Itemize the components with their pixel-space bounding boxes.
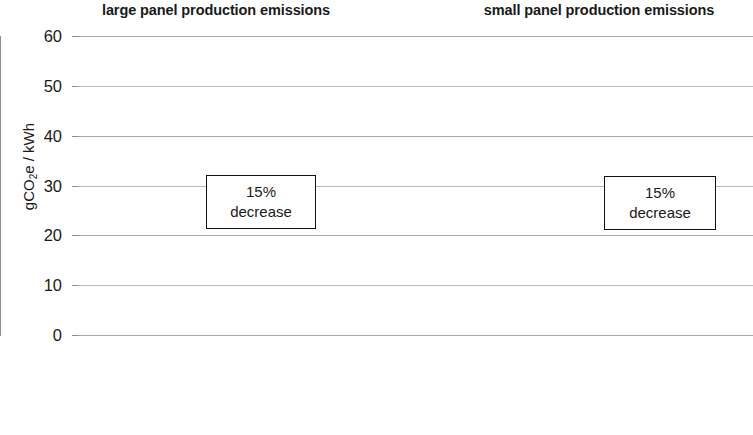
gridline	[72, 235, 753, 236]
gridline	[72, 86, 753, 87]
y-tick-mark	[72, 335, 78, 336]
y-tick-mark	[72, 36, 78, 37]
annotation-right-line1: 15%	[645, 183, 675, 203]
y-tick-mark	[72, 235, 78, 236]
y-tick-mark	[72, 86, 78, 87]
y-tick-label: 40	[22, 128, 62, 145]
y-tick-mark	[72, 136, 78, 137]
y-tick-mark	[72, 285, 78, 286]
gridline	[72, 335, 753, 336]
y-axis-tick-labels: 0102030405060	[14, 0, 62, 435]
gridline	[72, 36, 753, 37]
y-tick-label: 50	[22, 78, 62, 95]
y-tick-label: 10	[22, 277, 62, 294]
y-tick-mark	[72, 186, 78, 187]
annotation-left-line2: decrease	[230, 202, 292, 222]
right-panel-title: small panel production emissions	[445, 2, 753, 18]
y-axis-line	[0, 36, 1, 336]
annotation-left-line1: 15%	[246, 182, 276, 202]
annotation-box-right: 15% decrease	[604, 176, 716, 230]
y-tick-label: 0	[22, 327, 62, 344]
annotation-right-line2: decrease	[629, 203, 691, 223]
y-tick-label: 60	[22, 28, 62, 45]
left-panel-title: large panel production emissions	[66, 2, 366, 18]
gridline	[72, 136, 753, 137]
annotation-box-left: 15% decrease	[206, 175, 316, 229]
y-tick-label: 20	[22, 227, 62, 244]
y-tick-label: 30	[22, 178, 62, 195]
gridline	[72, 285, 753, 286]
bar-chart: large panel production emissions small p…	[0, 0, 753, 435]
